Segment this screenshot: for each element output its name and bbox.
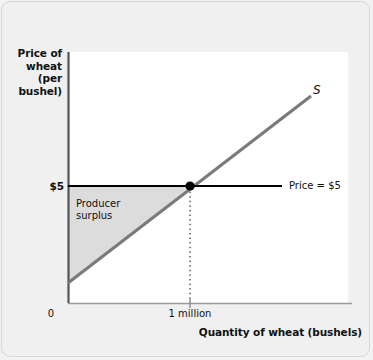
x-axis-title: Quantity of wheat (bushels)	[150, 326, 362, 338]
y-axis-tick-label-price: $5	[24, 180, 64, 192]
producer-surplus-label-line-2: surplus	[76, 210, 120, 222]
equilibrium-point-marker	[185, 181, 194, 190]
origin-label: 0	[40, 308, 62, 319]
supply-curve-label: S	[313, 83, 321, 97]
producer-surplus-label: Producer surplus	[76, 198, 120, 222]
y-axis-title-line-1: Price of	[0, 47, 62, 60]
x-axis-tick-label-quantity: 1 million	[150, 308, 230, 319]
y-axis-title-line-3: (per bushel)	[0, 72, 62, 97]
y-axis-title: Price of wheat (per bushel)	[0, 47, 62, 97]
y-axis-title-line-2: wheat	[0, 60, 62, 73]
producer-surplus-label-line-1: Producer	[76, 198, 120, 210]
price-line-label: Price = $5	[289, 180, 341, 191]
producer-surplus-figure: Price of wheat (per bushel) $5 0 1 milli…	[0, 0, 373, 360]
